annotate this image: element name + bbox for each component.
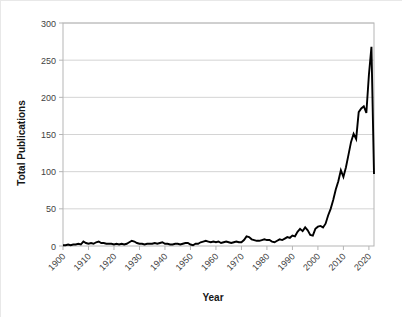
- x-axis-title: Year: [202, 292, 223, 303]
- y-tick-label: 300: [41, 19, 56, 29]
- chart-figure: 050100150200250300 190019101920193019401…: [0, 0, 402, 317]
- y-tick-label: 250: [41, 56, 56, 66]
- publications-line-chart: 050100150200250300 190019101920193019401…: [1, 1, 402, 317]
- y-tick-label: 100: [41, 167, 56, 177]
- y-tick-label: 50: [46, 204, 56, 214]
- y-tick-label: 0: [51, 242, 56, 252]
- chart-background: [1, 1, 402, 317]
- y-tick-label: 150: [41, 130, 56, 140]
- y-tick-label: 200: [41, 93, 56, 103]
- y-axis-title: Total Publications: [16, 100, 27, 186]
